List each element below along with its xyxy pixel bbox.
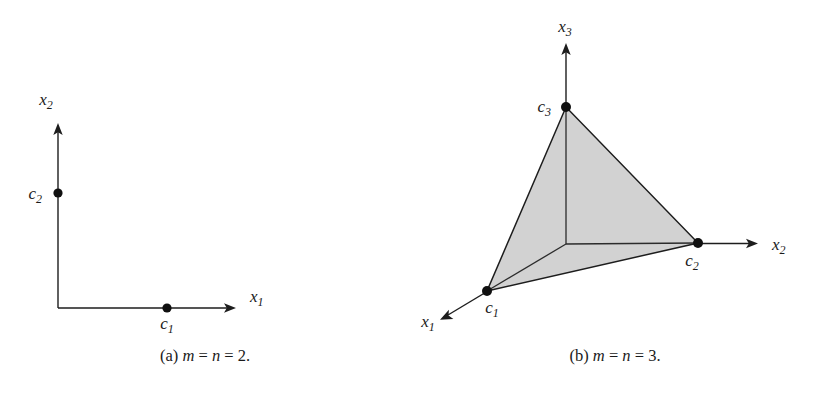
point-label-c2: c2 — [685, 251, 699, 273]
axis-arrowhead-x1 — [440, 310, 453, 320]
caption-b-eq2: = — [635, 346, 644, 365]
point-dot-c3 — [561, 102, 571, 112]
figure-panel-b: c3 c2 c1 x3 x2 x1 (b) m = n = 3. — [410, 0, 820, 396]
point-label-c2: c2 — [28, 184, 42, 206]
point-label-c1: c1 — [160, 314, 174, 336]
figure-panel-a: x2 x1 c2 c1 (a) m = n = 2. — [0, 0, 410, 396]
point-label-c1: c1 — [485, 298, 499, 320]
caption-b-eq1: = — [609, 346, 618, 365]
caption-a-mid: n — [212, 346, 220, 365]
caption-b-lhs: m — [593, 346, 605, 365]
caption-a-label: (a) — [160, 346, 178, 365]
caption-b-label: (b) — [569, 346, 588, 365]
axis-label-x1: x1 — [249, 287, 264, 309]
caption-b-mid: n — [622, 346, 630, 365]
figure-a-canvas: x2 x1 c2 c1 — [0, 0, 410, 348]
caption-a-eq1: = — [198, 346, 207, 365]
axis-label-x3: x3 — [557, 17, 572, 39]
point-dot-c2 — [693, 238, 703, 248]
axis-label-x2: x2 — [38, 90, 53, 112]
caption-panel-b: (b) m = n = 3. — [410, 348, 820, 365]
caption-b-value: 3. — [648, 346, 660, 365]
point-dot-c1 — [482, 286, 492, 296]
point-label-c3: c3 — [537, 97, 551, 119]
point-dot-c1 — [162, 303, 171, 312]
point-dot-c2 — [53, 188, 62, 197]
caption-a-lhs: m — [182, 346, 194, 365]
figure-root: x2 x1 c2 c1 (a) m = n = 2. — [0, 0, 820, 396]
figure-b-canvas: c3 c2 c1 x3 x2 x1 — [410, 0, 820, 348]
axis-label-x1: x1 — [420, 312, 435, 334]
caption-a-value: 2. — [238, 346, 250, 365]
caption-a-eq2: = — [224, 346, 233, 365]
axis-label-x2: x2 — [771, 235, 786, 257]
caption-panel-a: (a) m = n = 2. — [0, 348, 410, 365]
